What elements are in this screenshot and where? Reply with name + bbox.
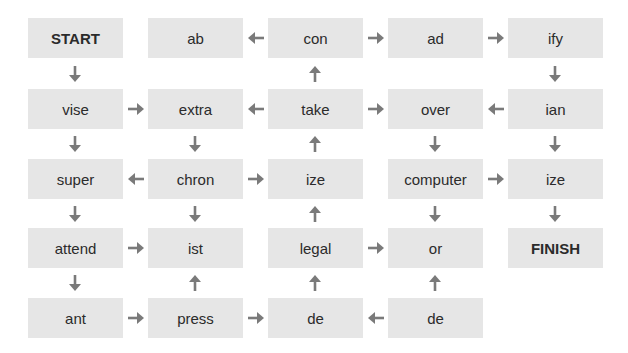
arrow-down-icon: [185, 134, 205, 154]
arrow-up-icon: [305, 273, 325, 293]
arrow-right-icon: [126, 238, 146, 258]
arrow-up-icon: [305, 204, 325, 224]
node-take: take: [268, 89, 363, 129]
node-de-left: de: [268, 298, 363, 338]
node-finish: FINISH: [508, 228, 603, 268]
arrow-up-icon: [185, 273, 205, 293]
node-chron: chron: [148, 159, 243, 199]
node-press: press: [148, 298, 243, 338]
node-extra: extra: [148, 89, 243, 129]
node-computer: computer: [388, 159, 483, 199]
node-ian: ian: [508, 89, 603, 129]
arrow-left-icon: [246, 28, 266, 48]
arrow-down-icon: [545, 64, 565, 84]
node-ify: ify: [508, 18, 603, 58]
node-con: con: [268, 18, 363, 58]
arrow-up-icon: [305, 64, 325, 84]
arrow-up-icon: [305, 134, 325, 154]
node-vise: vise: [28, 89, 123, 129]
arrow-right-icon: [246, 308, 266, 328]
node-ant: ant: [28, 298, 123, 338]
arrow-down-icon: [65, 64, 85, 84]
arrow-down-icon: [545, 134, 565, 154]
arrow-down-icon: [65, 134, 85, 154]
arrow-down-icon: [185, 204, 205, 224]
arrow-up-icon: [425, 273, 445, 293]
arrow-right-icon: [126, 99, 146, 119]
node-attend: attend: [28, 228, 123, 268]
node-ad: ad: [388, 18, 483, 58]
arrow-left-icon: [366, 308, 386, 328]
arrow-down-icon: [65, 204, 85, 224]
node-de-right: de: [388, 298, 483, 338]
arrow-left-icon: [126, 169, 146, 189]
arrow-down-icon: [65, 273, 85, 293]
arrow-right-icon: [366, 99, 386, 119]
arrow-down-icon: [545, 204, 565, 224]
node-ize-middle: ize: [268, 159, 363, 199]
arrow-left-icon: [486, 99, 506, 119]
node-start: START: [28, 18, 123, 58]
node-ize-right: ize: [508, 159, 603, 199]
node-ab: ab: [148, 18, 243, 58]
node-over: over: [388, 89, 483, 129]
arrow-down-icon: [425, 204, 445, 224]
arrow-right-icon: [246, 169, 266, 189]
arrow-down-icon: [425, 134, 445, 154]
arrow-left-icon: [246, 99, 266, 119]
arrow-right-icon: [126, 308, 146, 328]
arrow-right-icon: [486, 169, 506, 189]
node-super: super: [28, 159, 123, 199]
arrow-right-icon: [366, 238, 386, 258]
node-ist: ist: [148, 228, 243, 268]
arrow-right-icon: [486, 28, 506, 48]
arrow-right-icon: [366, 28, 386, 48]
node-or: or: [388, 228, 483, 268]
node-legal: legal: [268, 228, 363, 268]
